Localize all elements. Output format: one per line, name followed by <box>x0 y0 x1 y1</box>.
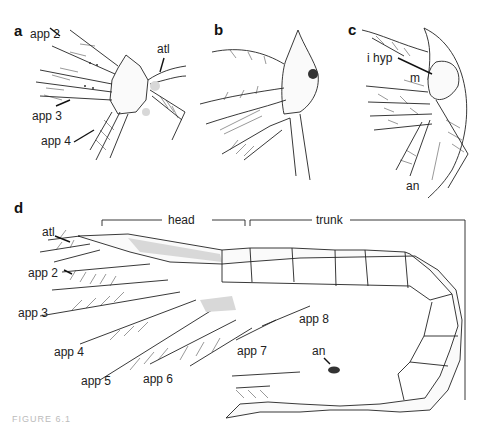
label-d-app5: app 5 <box>81 375 111 387</box>
label-d-trunk: trunk <box>316 214 343 226</box>
label-d-head: head <box>168 214 195 226</box>
label-d-app4: app 4 <box>54 346 84 358</box>
label-d-atl: atl <box>42 226 55 238</box>
figure-caption: FIGURE 6.1 <box>12 414 71 424</box>
panel-d-drawing <box>40 220 465 418</box>
label-d-app3: app 3 <box>18 307 48 319</box>
label-d-app8: app 8 <box>299 313 329 325</box>
label-d-app7: app 7 <box>237 345 267 357</box>
panel-b-drawing <box>200 30 318 180</box>
label-a-app4: app 4 <box>41 135 71 147</box>
panel-label-b: b <box>214 22 223 37</box>
figure-drawing <box>0 0 490 424</box>
label-a-app3: app 3 <box>32 110 62 122</box>
label-a-atl: atl <box>157 43 170 55</box>
panel-label-a: a <box>14 23 22 38</box>
panel-label-d: d <box>14 200 23 215</box>
label-d-app6: app 6 <box>143 373 173 385</box>
label-c-m: m <box>410 72 420 84</box>
label-d-app2: app 2 <box>28 267 58 279</box>
label-c-an: an <box>406 180 419 192</box>
label-d-an: an <box>312 345 325 357</box>
label-a-app2: app 2 <box>30 28 60 40</box>
label-c-ihyp: i hyp <box>367 52 392 64</box>
panel-label-c: c <box>348 22 356 37</box>
